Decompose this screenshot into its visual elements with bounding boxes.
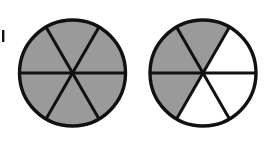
fraction-circles-figure (0, 0, 264, 145)
left-fraction-circle (20, 20, 126, 126)
right-fraction-circle (150, 20, 256, 126)
figure-svg (0, 0, 264, 145)
margin-tick-mark (2, 30, 4, 42)
